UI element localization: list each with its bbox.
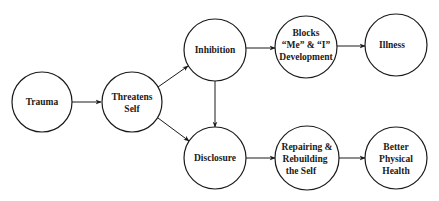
node-repairing-label-1: Repairing & — [282, 142, 333, 152]
node-better-label-3: Health — [382, 166, 410, 176]
node-disclosure-label: Disclosure — [194, 153, 236, 163]
node-blocks-label-1: Blocks — [293, 28, 320, 38]
node-disclosure: Disclosure — [184, 127, 246, 189]
node-illness-label: Illness — [379, 40, 405, 50]
node-inhibition-label: Inhibition — [195, 45, 236, 55]
node-inhibition: Inhibition — [184, 19, 246, 81]
node-better-health: Better Physical Health — [365, 127, 427, 189]
node-repairing-label-3: the Self — [286, 166, 317, 176]
edge-threatens-to-inhibition — [158, 66, 188, 87]
node-trauma-label: Trauma — [26, 97, 59, 107]
node-repairing-self: Repairing & Rebuilding the Self — [275, 126, 339, 190]
node-illness: Illness — [365, 14, 427, 76]
node-trauma: Trauma — [12, 72, 72, 132]
node-threatens-label-2: Self — [124, 104, 140, 114]
node-blocks-label-3: Development — [279, 52, 333, 62]
node-threatens-label-1: Threatens — [112, 92, 153, 102]
trauma-disclosure-diagram: Trauma Threatens Self Inhibition Disclos… — [0, 0, 439, 201]
edge-threatens-to-disclosure — [158, 118, 189, 141]
node-blocks-development: Blocks “Me” & “I” Development — [275, 16, 337, 78]
node-threatens-self: Threatens Self — [102, 72, 162, 132]
node-better-label-2: Physical — [379, 154, 413, 164]
node-blocks-label-2: “Me” & “I” — [282, 40, 331, 50]
node-repairing-label-2: Rebuilding — [283, 154, 328, 164]
node-better-label-1: Better — [383, 142, 409, 152]
